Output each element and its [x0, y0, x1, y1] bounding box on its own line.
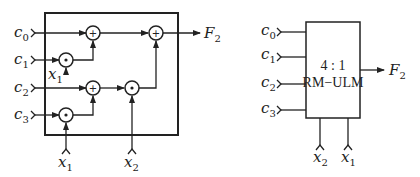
svg-text:c1: c1: [14, 50, 29, 70]
input-chevron-icon: [31, 84, 35, 92]
left-input-c3: c3: [14, 105, 35, 125]
input-chevron-icon: [31, 29, 35, 37]
right-output-f2: F2: [388, 61, 406, 81]
right-block: 4 : 1 RM−ULM c0 c1 c2 c3 F2 x: [261, 21, 406, 168]
xor-plus-icon: +: [89, 83, 97, 94]
bottom-select-x1: x1: [58, 153, 73, 173]
svg-text:c3: c3: [14, 105, 29, 125]
right-input-c3: c3: [261, 99, 306, 119]
left-output-f2: F2: [203, 24, 221, 44]
and-dot-icon: [130, 86, 133, 89]
svg-text:c2: c2: [14, 78, 29, 98]
inner-select-x1: x1: [48, 65, 63, 85]
bottom-select-x2: x2: [124, 153, 139, 173]
svg-text:c1: c1: [261, 45, 276, 65]
and-dot-icon: [64, 58, 67, 61]
block-ratio-label: 4 : 1: [321, 58, 346, 73]
svg-text:c0: c0: [261, 21, 276, 41]
and-gate-mid: [125, 81, 139, 95]
left-input-c2: c2: [14, 78, 35, 98]
svg-text:c0: c0: [14, 23, 29, 43]
left-input-c1: c1: [14, 50, 35, 70]
left-circuit: c0 c1 c2 c3 x1: [14, 13, 221, 173]
svg-text:c2: c2: [261, 73, 276, 93]
right-input-c2: c2: [261, 73, 306, 93]
block-name-label: RM−ULM: [303, 75, 364, 90]
xor-plus-icon: +: [152, 28, 160, 39]
right-select-x2: x2: [313, 118, 328, 168]
left-input-c0: c0: [14, 23, 35, 43]
xor-plus-icon: +: [89, 28, 97, 39]
xor-gate-top: +: [86, 26, 100, 40]
and-gate-c3: [59, 108, 73, 122]
xor-gate-mid: +: [86, 81, 100, 95]
rm-ulm-diagram: c0 c1 c2 c3 x1: [0, 0, 420, 177]
svg-text:x2: x2: [313, 148, 328, 168]
svg-text:x1: x1: [341, 148, 356, 168]
input-chevron-icon: [31, 111, 35, 119]
right-input-c0: c0: [261, 21, 306, 41]
xor-gate-output: +: [149, 26, 163, 40]
input-chevron-icon: [31, 56, 35, 64]
and-dot-icon: [64, 113, 67, 116]
svg-text:c3: c3: [261, 99, 276, 119]
right-input-c1: c1: [261, 45, 306, 65]
and-gate-c1: [59, 53, 73, 67]
right-select-x1: x1: [341, 118, 356, 168]
